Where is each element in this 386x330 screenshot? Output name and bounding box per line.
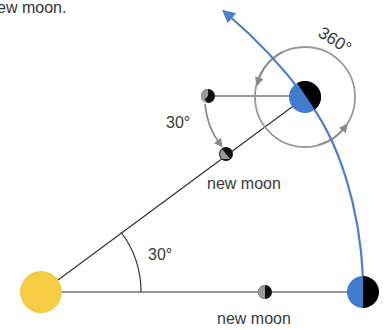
diagram-canvas <box>0 0 386 330</box>
sun-angle-label: 30° <box>148 246 172 264</box>
new-moon-label-bottom: new moon <box>217 310 291 328</box>
moon-top-new <box>219 147 233 161</box>
new-moon-label-top: new moon <box>207 175 281 193</box>
caption-text: ew moon. <box>0 0 66 17</box>
moon-angle-label: 30° <box>166 114 190 132</box>
angle-arc-sun <box>121 232 141 292</box>
moon-orbit-arrow <box>205 104 220 144</box>
moon-bottom <box>258 285 272 299</box>
sun <box>20 271 62 313</box>
moon-top-start <box>201 89 215 103</box>
earth-bottom <box>347 276 379 308</box>
